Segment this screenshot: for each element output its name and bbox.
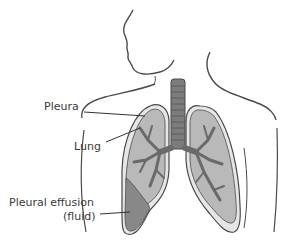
- label-pleura: Pleura: [44, 100, 79, 113]
- label-pleural-effusion: Pleural effusion: [9, 196, 94, 209]
- pleura-leader: [84, 112, 145, 116]
- pleural-effusion-diagram: Pleura Lung Pleural effusion (fluid): [0, 0, 283, 240]
- neck-line: [154, 76, 155, 84]
- torso-right: [274, 128, 277, 232]
- neck-back: [207, 52, 276, 120]
- label-lung: Lung: [74, 140, 101, 153]
- trachea: [171, 79, 185, 149]
- label-fluid: (fluid): [63, 210, 96, 223]
- rib-right: [244, 148, 247, 228]
- face-profile: [124, 10, 174, 74]
